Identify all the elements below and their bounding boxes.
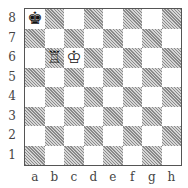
square-d1[interactable] xyxy=(84,146,104,166)
square-c1[interactable] xyxy=(64,146,84,166)
square-g8[interactable] xyxy=(142,9,162,29)
square-d8[interactable] xyxy=(84,9,104,29)
rank-label-2: 2 xyxy=(6,128,18,142)
file-label-h: h xyxy=(162,170,182,184)
square-e2[interactable] xyxy=(103,126,123,146)
rank-label-7: 7 xyxy=(6,31,18,45)
square-b3[interactable] xyxy=(45,107,65,127)
square-f4[interactable] xyxy=(123,87,143,107)
square-d4[interactable] xyxy=(84,87,104,107)
square-a7[interactable] xyxy=(25,29,45,49)
square-b2[interactable] xyxy=(45,126,65,146)
file-label-d: d xyxy=(84,170,104,184)
square-d6[interactable] xyxy=(84,48,104,68)
square-h1[interactable] xyxy=(162,146,182,166)
square-b8[interactable] xyxy=(45,9,65,29)
square-f3[interactable] xyxy=(123,107,143,127)
square-f1[interactable] xyxy=(123,146,143,166)
square-d7[interactable] xyxy=(84,29,104,49)
square-c6[interactable]: ♔ xyxy=(64,48,84,68)
square-f6[interactable] xyxy=(123,48,143,68)
square-b1[interactable] xyxy=(45,146,65,166)
file-label-e: e xyxy=(103,170,123,184)
square-g1[interactable] xyxy=(142,146,162,166)
square-a4[interactable] xyxy=(25,87,45,107)
square-g6[interactable] xyxy=(142,48,162,68)
square-d3[interactable] xyxy=(84,107,104,127)
rank-label-3: 3 xyxy=(6,109,18,123)
square-g7[interactable] xyxy=(142,29,162,49)
file-label-b: b xyxy=(45,170,65,184)
square-a2[interactable] xyxy=(25,126,45,146)
square-h4[interactable] xyxy=(162,87,182,107)
file-label-c: c xyxy=(64,170,84,184)
square-d2[interactable] xyxy=(84,126,104,146)
file-label-g: g xyxy=(142,170,162,184)
white-rook-icon[interactable]: ♖ xyxy=(45,48,65,68)
square-e1[interactable] xyxy=(103,146,123,166)
square-c5[interactable] xyxy=(64,68,84,88)
square-g3[interactable] xyxy=(142,107,162,127)
square-f8[interactable] xyxy=(123,9,143,29)
square-e3[interactable] xyxy=(103,107,123,127)
square-a1[interactable] xyxy=(25,146,45,166)
square-c2[interactable] xyxy=(64,126,84,146)
rank-label-5: 5 xyxy=(6,70,18,84)
square-h2[interactable] xyxy=(162,126,182,146)
rank-label-8: 8 xyxy=(6,11,18,25)
square-e5[interactable] xyxy=(103,68,123,88)
rank-label-1: 1 xyxy=(6,148,18,162)
square-h8[interactable] xyxy=(162,9,182,29)
chess-board: ♚♖♔ xyxy=(24,8,182,166)
square-b4[interactable] xyxy=(45,87,65,107)
square-a8[interactable]: ♚ xyxy=(25,9,45,29)
square-e4[interactable] xyxy=(103,87,123,107)
white-king-icon[interactable]: ♔ xyxy=(64,48,84,68)
square-e6[interactable] xyxy=(103,48,123,68)
square-g5[interactable] xyxy=(142,68,162,88)
square-b6[interactable]: ♖ xyxy=(45,48,65,68)
square-d5[interactable] xyxy=(84,68,104,88)
square-e7[interactable] xyxy=(103,29,123,49)
square-e8[interactable] xyxy=(103,9,123,29)
square-c8[interactable] xyxy=(64,9,84,29)
square-f7[interactable] xyxy=(123,29,143,49)
square-h7[interactable] xyxy=(162,29,182,49)
square-b5[interactable] xyxy=(45,68,65,88)
square-a5[interactable] xyxy=(25,68,45,88)
square-f5[interactable] xyxy=(123,68,143,88)
file-label-a: a xyxy=(25,170,45,184)
square-h6[interactable] xyxy=(162,48,182,68)
square-c4[interactable] xyxy=(64,87,84,107)
square-c7[interactable] xyxy=(64,29,84,49)
square-h3[interactable] xyxy=(162,107,182,127)
rank-label-6: 6 xyxy=(6,50,18,64)
square-b7[interactable] xyxy=(45,29,65,49)
square-g2[interactable] xyxy=(142,126,162,146)
square-f2[interactable] xyxy=(123,126,143,146)
square-c3[interactable] xyxy=(64,107,84,127)
square-g4[interactable] xyxy=(142,87,162,107)
square-a3[interactable] xyxy=(25,107,45,127)
rank-label-4: 4 xyxy=(6,89,18,103)
square-a6[interactable] xyxy=(25,48,45,68)
file-label-f: f xyxy=(123,170,143,184)
black-king-icon[interactable]: ♚ xyxy=(25,9,45,29)
square-h5[interactable] xyxy=(162,68,182,88)
